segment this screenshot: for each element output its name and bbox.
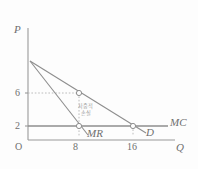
deadweight-loss-annotation: 사중적 손실: [78, 103, 93, 116]
demand-curve-label: D: [146, 127, 154, 138]
deadweight-loss-annotation-line2: 손실: [78, 110, 93, 117]
x-axis-label: Q: [176, 142, 184, 153]
mr-mc-point-marker: [76, 123, 81, 128]
mr-curve-label: MR: [87, 128, 103, 139]
x-tick-label-16: 16: [127, 142, 137, 152]
deadweight-loss-annotation-line1: 사중적: [78, 103, 93, 110]
competitive-point-marker: [130, 123, 135, 128]
chart-plot-area: [0, 0, 198, 169]
origin-label: O: [15, 142, 22, 152]
demand-curve: [30, 61, 146, 133]
monopoly-deadweight-loss-chart: P Q 6 2 O 8 16 MR D MC 사중적 손실: [0, 0, 198, 169]
y-tick-label-6: 6: [15, 88, 20, 98]
mc-curve-label: MC: [170, 117, 187, 128]
y-tick-label-2: 2: [15, 121, 20, 131]
monopoly-point-marker: [76, 90, 81, 95]
x-tick-label-8: 8: [73, 142, 78, 152]
y-axis-label: P: [14, 24, 21, 35]
